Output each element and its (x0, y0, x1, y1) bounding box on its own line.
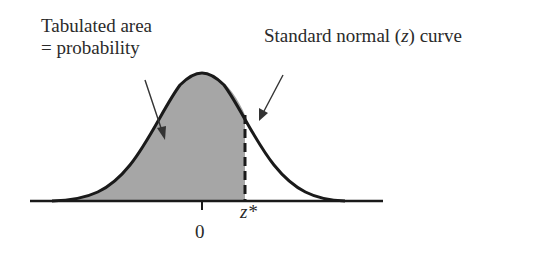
curve-label: Standard normal (z) curve (264, 25, 462, 47)
curve-label-prefix: Standard normal ( (264, 25, 401, 46)
shaded-area-label-line1: Tabulated area (41, 15, 152, 37)
critical-value-label: z* (240, 201, 257, 223)
shaded-area-label-line2: = probability (41, 37, 152, 59)
center-tick-label: 0 (195, 221, 205, 243)
shaded-area-label: Tabulated area = probability (41, 15, 152, 59)
curve-label-variable: z (401, 25, 408, 46)
curve-label-suffix: ) curve (409, 25, 462, 46)
curve-arrow (259, 75, 283, 121)
